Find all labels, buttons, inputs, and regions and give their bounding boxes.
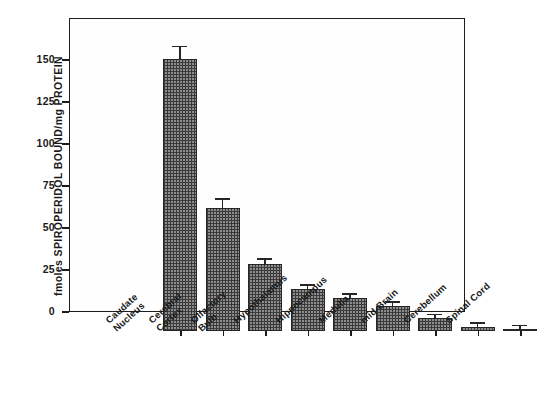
y-axis-tick-mark: [62, 185, 69, 187]
y-axis-tick-mark: [62, 143, 69, 145]
y-axis-tick-label: 125: [37, 95, 55, 107]
error-bar-cap: [172, 46, 187, 48]
x-axis-tick-mark: [180, 331, 182, 336]
x-axis-tick-mark: [520, 331, 522, 336]
y-axis-title: fmoles SPIROPERIDOL BOUND/mg PROTEIN: [52, 26, 64, 326]
error-bar-line: [222, 200, 224, 208]
x-axis-tick-mark: [435, 331, 437, 336]
y-axis-tick-mark: [62, 101, 69, 103]
y-axis-tick-label: 100: [37, 137, 55, 149]
y-axis-tick-mark: [62, 311, 69, 313]
y-axis-tick-label: 25: [43, 263, 55, 275]
error-bar-line: [477, 324, 479, 327]
y-axis-tick-mark: [62, 59, 69, 61]
error-bar-cap: [427, 314, 442, 316]
y-axis-tick-label: 0: [49, 305, 55, 317]
error-bar-line: [434, 315, 436, 318]
x-axis-tick-mark: [350, 331, 352, 336]
error-bar-cap: [512, 325, 527, 327]
x-axis-tick-mark: [223, 331, 225, 336]
x-axis-tick-mark: [393, 331, 395, 336]
error-bar-line: [179, 47, 181, 59]
y-axis-tick-label: 50: [43, 221, 55, 233]
y-axis-tick-label: 75: [43, 179, 55, 191]
x-axis-tick-mark: [308, 331, 310, 336]
x-axis-tick-mark: [265, 331, 267, 336]
x-axis-tick-mark: [478, 331, 480, 336]
y-axis-tick-label: 150: [37, 53, 55, 65]
error-bar-cap: [215, 198, 230, 200]
y-axis-tick-mark: [62, 269, 69, 271]
error-bar-cap: [470, 322, 485, 324]
y-axis-tick-mark: [62, 227, 69, 229]
error-bar-line: [392, 303, 394, 306]
